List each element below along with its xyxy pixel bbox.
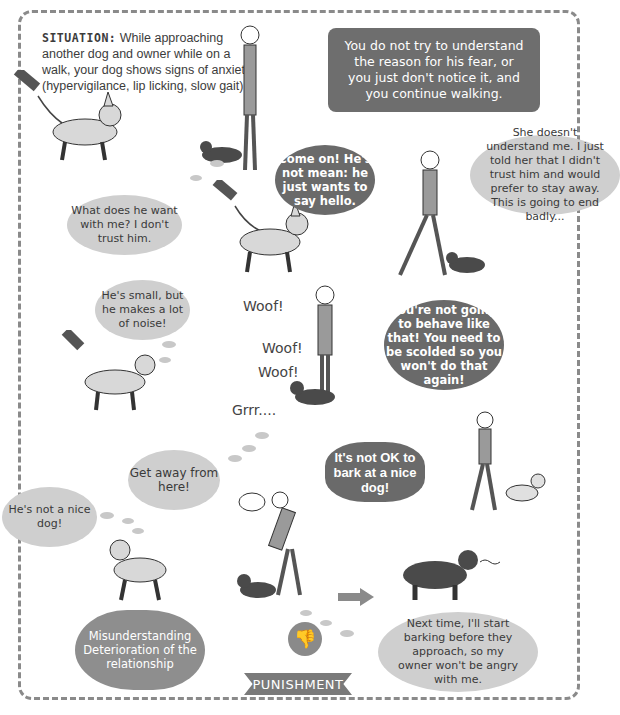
thumbs-down-icon: 👎 [288, 622, 322, 656]
arrow-right-icon [338, 588, 374, 606]
dog-on-leash-illustration [10, 70, 130, 165]
speech-bubble-scold: You're not going to behave like that! Yo… [384, 300, 504, 390]
speech-bubble-not-ok: It's not OK to bark at a nice dog! [325, 442, 425, 502]
thought-bubble-small-dog: He's small, but he makes a lot of noise! [95, 280, 190, 340]
thought-bubble-not-nice: He's not a nice dog! [2, 487, 97, 547]
punishment-banner: PUNISHMENT [244, 673, 352, 695]
thought-puff [100, 512, 114, 519]
thought-bubble-get-away: Get away from here! [128, 450, 220, 510]
anxious-dog-illustration [60, 330, 175, 415]
sfx-woof-2: Woof! [262, 340, 303, 356]
situation-label: SITUATION: [42, 31, 116, 45]
consequence-cloud: Misunderstanding Deterioration of the re… [75, 610, 205, 690]
thought-puff [132, 528, 144, 534]
owner-with-dachshund-illustration [200, 20, 280, 180]
thought-puff [255, 432, 269, 439]
thought-puff [300, 610, 312, 616]
other-owner-with-dog-illustration [460, 405, 550, 515]
thought-puff [190, 175, 202, 181]
thought-puff [210, 160, 224, 167]
sfx-woof-3: Woof! [258, 364, 299, 380]
dog-walking-away-illustration [95, 530, 185, 605]
sfx-grrr: Grrr.... [232, 402, 276, 418]
owner-scolding-dachshund-illustration [230, 485, 320, 605]
thought-puff [320, 620, 332, 626]
thought-bubble-next-time: Next time, I'll start barking before the… [378, 612, 538, 692]
thought-puff [340, 630, 354, 637]
sfx-woof-1: Woof! [243, 298, 284, 314]
barking-dachshund-illustration [380, 530, 500, 605]
thought-puff [242, 445, 256, 452]
thought-bubble-trust: What does he want with me? I don't trust… [67, 195, 182, 255]
thought-bubble-end-badly: She doesn't understand me. I just told h… [470, 135, 620, 215]
narration-box: You do not try to understand the reason … [328, 28, 540, 112]
thought-puff [122, 518, 134, 524]
thought-puff [159, 357, 171, 363]
speech-bubble-come-on: Come on! He's not mean: he just wants to… [275, 145, 375, 215]
thought-puff [228, 455, 242, 462]
thought-puff [162, 341, 176, 348]
